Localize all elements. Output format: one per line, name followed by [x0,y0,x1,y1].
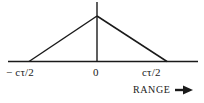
x-axis-title-group: RANGE [133,84,193,95]
x-tick-label-right: cτ/2 [142,66,161,78]
x-tick-label-left: − cτ/2 [6,66,34,78]
x-axis-title: RANGE [133,84,170,95]
range-response-figure: − cτ/2 0 cτ/2 RANGE [0,0,204,103]
right-arrow-icon [175,85,193,95]
x-tick-label-center: 0 [93,66,99,78]
triangle-rising-edge [29,16,97,62]
triangle-falling-edge [97,16,167,62]
